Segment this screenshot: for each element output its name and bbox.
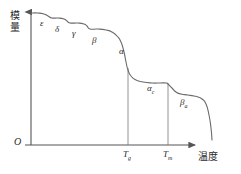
region-label-delta: δ bbox=[55, 25, 59, 34]
region-label-gamma: γ bbox=[72, 29, 76, 38]
region-label-epsilon: ε bbox=[40, 19, 44, 28]
region-label-alpha-c: αc bbox=[147, 84, 154, 95]
y-axis-label: 模 量 bbox=[8, 10, 22, 34]
tick-label-tm: Tm bbox=[163, 150, 172, 161]
tick-subscript-tm: m bbox=[168, 155, 172, 161]
region-label-beta-a: βa bbox=[180, 98, 187, 109]
modulus-temperature-figure: 模 量 温度 O Tg Tm ε δ γ β α αc βa bbox=[0, 0, 241, 174]
tick-label-tg: Tg bbox=[123, 150, 131, 161]
region-label-alpha: α bbox=[119, 47, 124, 56]
region-label-beta: β bbox=[92, 36, 96, 45]
plot-area bbox=[0, 0, 241, 174]
region-subscript-alpha-c: c bbox=[152, 89, 155, 95]
origin-label: O bbox=[14, 137, 21, 147]
y-axis-label-char-1: 模 bbox=[8, 10, 22, 22]
x-axis-label: 温度 bbox=[198, 152, 218, 162]
region-subscript-beta-a: a bbox=[184, 103, 187, 109]
y-axis-label-char-2: 量 bbox=[8, 22, 22, 34]
tick-subscript-tg: g bbox=[128, 155, 131, 161]
